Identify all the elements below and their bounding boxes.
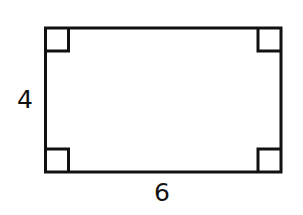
- rectangle-diagram: [0, 0, 303, 215]
- right-angle-marker-top-left: [46, 28, 69, 51]
- right-angle-marker-bottom-right: [258, 149, 281, 172]
- width-label: 6: [154, 180, 170, 205]
- right-angle-marker-top-right: [258, 28, 281, 51]
- height-label: 4: [17, 87, 33, 112]
- rectangle-outline: [46, 28, 282, 172]
- right-angle-marker-bottom-left: [46, 149, 69, 172]
